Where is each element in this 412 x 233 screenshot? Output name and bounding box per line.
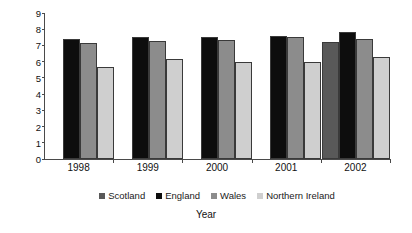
- legend-label: Scotland: [108, 190, 145, 201]
- x-axis-tick-labels: 19981999200020012002: [44, 162, 390, 178]
- legend-label: Wales: [220, 190, 246, 201]
- bar-ni-1998: [97, 67, 114, 159]
- bar-ni-2000: [235, 62, 252, 159]
- bar-ni-1999: [166, 59, 183, 159]
- y-axis-tick-label: 7: [36, 40, 45, 51]
- legend-swatch-scotland-icon: [99, 193, 105, 199]
- legend-label: Northern Ireland: [266, 190, 335, 201]
- bar-scotland-2002: [322, 42, 339, 159]
- chart-legend: ScotlandEnglandWalesNorthern Ireland: [44, 190, 390, 201]
- bar-group-2001: [253, 13, 322, 159]
- y-axis-tick-label: 1: [36, 137, 45, 148]
- bar-wales-2001: [287, 37, 304, 159]
- legend-item-scotland[interactable]: Scotland: [99, 190, 145, 201]
- bar-england-2002: [339, 32, 356, 159]
- legend-item-ni[interactable]: Northern Ireland: [257, 190, 335, 201]
- bar-groups: [45, 13, 391, 159]
- bar-group-1998: [45, 13, 114, 159]
- bar-group-1999: [114, 13, 183, 159]
- legend-swatch-wales-icon: [211, 193, 217, 199]
- x-axis-label-1999: 1999: [113, 162, 182, 178]
- y-axis-tick-label: 5: [36, 72, 45, 83]
- x-axis-label-2000: 2000: [182, 162, 251, 178]
- legend-item-england[interactable]: England: [156, 190, 200, 201]
- bar-england-2001: [270, 36, 287, 159]
- bar-group-2002: [322, 13, 391, 159]
- y-axis-tick-label: 8: [36, 24, 45, 35]
- x-axis-tick-mark: [390, 159, 391, 163]
- legend-swatch-england-icon: [156, 193, 162, 199]
- y-axis-tick-label: 4: [36, 89, 45, 100]
- bar-wales-2000: [218, 40, 235, 159]
- x-axis-label-2001: 2001: [252, 162, 321, 178]
- legend-item-wales[interactable]: Wales: [211, 190, 246, 201]
- y-axis-tick-label: 9: [36, 8, 45, 19]
- x-axis-title: Year: [0, 209, 412, 220]
- x-axis-label-1998: 1998: [44, 162, 113, 178]
- bar-wales-1999: [149, 41, 166, 159]
- bar-england-1999: [132, 37, 149, 159]
- legend-swatch-ni-icon: [257, 193, 263, 199]
- bar-group-2000: [183, 13, 252, 159]
- y-axis-tick-label: 2: [36, 121, 45, 132]
- legend-label: England: [165, 190, 200, 201]
- bar-ni-2001: [304, 62, 321, 159]
- y-axis-tick-label: 6: [36, 56, 45, 67]
- bar-wales-1998: [80, 43, 97, 159]
- bar-england-1998: [63, 39, 80, 159]
- y-axis-tick-label: 3: [36, 105, 45, 116]
- bar-england-2000: [201, 37, 218, 159]
- x-axis-label-2002: 2002: [321, 162, 390, 178]
- bar-wales-2002: [356, 39, 373, 159]
- bar-chart: % low birth weight live births 012345678…: [0, 0, 412, 233]
- bar-ni-2002: [373, 57, 390, 159]
- plot-area: 0123456789: [44, 13, 391, 160]
